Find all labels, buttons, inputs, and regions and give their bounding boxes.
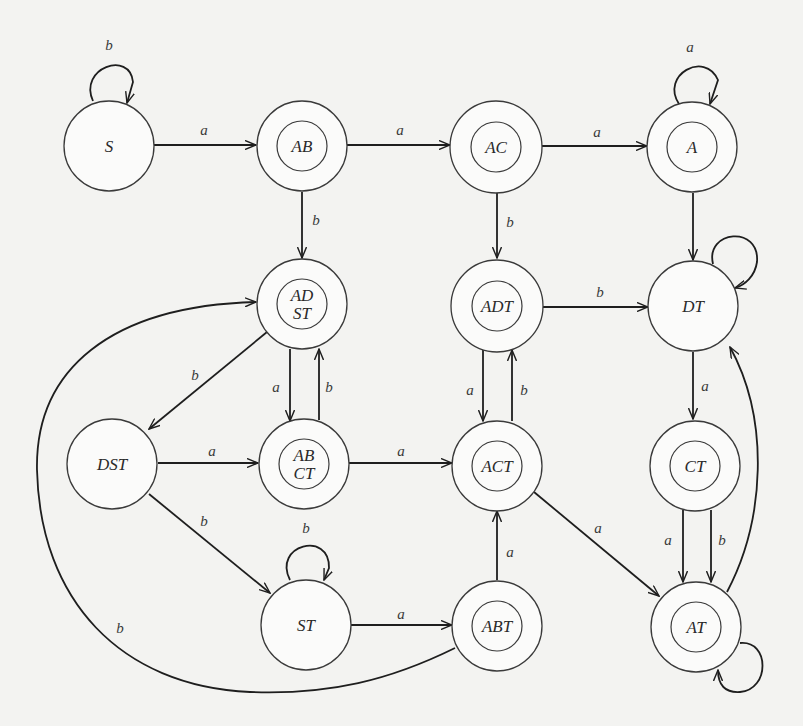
state-DST[interactable]: DST: [67, 419, 157, 509]
edge-ACT-AT: [534, 492, 659, 596]
edge-label-ADST-ABCT: a: [272, 379, 280, 395]
state-label: ADT: [480, 297, 515, 316]
edge-label-ST-ST: b: [302, 520, 310, 536]
edge-A-A: [674, 66, 718, 104]
edge-label-DST-ST: b: [200, 513, 208, 529]
state-S[interactable]: S: [64, 101, 154, 191]
edge-label-DST-ABCT: a: [208, 443, 216, 459]
state-label: AB: [291, 137, 313, 156]
state-AB[interactable]: AB: [257, 101, 347, 191]
edge-label-ST-ABT: a: [397, 606, 405, 622]
state-A[interactable]: A: [647, 102, 737, 192]
edge-label-S-S: b: [105, 37, 113, 53]
edge-label-DT-CT: a: [701, 378, 709, 394]
state-label: DST: [96, 455, 129, 474]
edge-label-ADST-DST: b: [191, 367, 199, 383]
edge-S-S: [90, 65, 133, 103]
state-ADT[interactable]: ADT: [451, 260, 543, 352]
edge-label-AC-A: a: [593, 124, 601, 140]
edge-label-AB-AC: a: [396, 122, 404, 138]
edge-label-ABT-ADST: b: [116, 620, 124, 636]
edge-label-ACT-ADT: b: [520, 382, 528, 398]
state-label: AT: [685, 618, 707, 637]
state-label-line1: AD: [290, 286, 314, 305]
state-label-line2: CT: [294, 464, 316, 483]
edge-DST-ST: [149, 494, 270, 593]
state-ABCT[interactable]: AB CT: [259, 419, 349, 509]
state-label: ST: [297, 616, 317, 635]
state-CT[interactable]: CT: [650, 421, 740, 511]
edge-label-ABCT-ACT: a: [397, 443, 405, 459]
edge-ST-ST: [287, 546, 329, 580]
state-diagram: S AB AC A AD ST ADT D: [0, 0, 803, 726]
edge-labels: b a a a a b b b b a b a b a a a b b a a …: [105, 37, 726, 636]
state-AT[interactable]: AT: [651, 582, 741, 672]
state-AC[interactable]: AC: [450, 101, 542, 193]
nodes: S AB AC A AD ST ADT D: [64, 101, 741, 672]
state-ABT[interactable]: ABT: [452, 581, 542, 671]
edge-label-S-AB: a: [200, 122, 208, 138]
edge-ADST-DST: [149, 332, 267, 429]
state-label: AC: [484, 138, 507, 157]
edge-label-ABT-ACT: a: [506, 544, 514, 560]
state-label-line1: AB: [293, 446, 315, 465]
edge-label-ACT-AT: a: [594, 520, 602, 536]
edge-label-AC-ADT: b: [506, 214, 514, 230]
edge-label-A-A: a: [686, 39, 694, 55]
edge-label-ADT-DT: b: [596, 284, 604, 300]
state-ADST[interactable]: AD ST: [257, 259, 347, 349]
state-label: A: [686, 138, 698, 157]
state-label: S: [105, 137, 114, 156]
state-label: ABT: [481, 617, 514, 636]
state-ACT[interactable]: ACT: [452, 421, 542, 511]
state-label: DT: [681, 297, 705, 316]
edge-label-AB-ADST: b: [312, 212, 320, 228]
state-label-line2: ST: [293, 304, 313, 323]
state-label: ACT: [480, 457, 514, 476]
edge-label-ADT-ACT: a: [466, 382, 474, 398]
state-DT[interactable]: DT: [648, 261, 738, 351]
edge-label-CT-AT-a: a: [664, 532, 672, 548]
state-ST[interactable]: ST: [261, 580, 351, 670]
edge-label-ABCT-ADST: b: [325, 379, 333, 395]
edge-label-CT-AT-b: b: [718, 532, 726, 548]
state-label: CT: [685, 457, 707, 476]
